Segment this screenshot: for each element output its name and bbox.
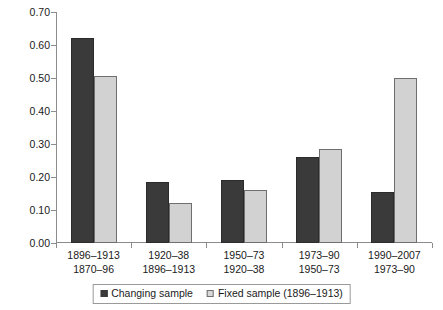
x-axis-category-label: 1950–731920–38 — [206, 248, 281, 276]
y-axis-tick-label: 0.50 — [6, 73, 50, 84]
legend-label: Fixed sample (1896–1913) — [218, 287, 343, 300]
x-label-line-2: 1896–1913 — [131, 262, 206, 276]
x-label-line-2: 1950–73 — [282, 262, 357, 276]
x-axis-category-label: 1990–20071973–90 — [357, 248, 432, 276]
legend-swatch-icon — [100, 290, 107, 297]
legend-swatch-icon — [207, 290, 214, 297]
x-label-line-1: 1950–73 — [224, 249, 265, 261]
x-axis-category-label: 1920–381896–1913 — [131, 248, 206, 276]
y-axis-tick-label: 0.40 — [6, 106, 50, 117]
x-axis-category-label: 1896–19131870–96 — [56, 248, 131, 276]
plot-area: 0.000.100.200.300.400.500.600.70 — [56, 12, 432, 243]
bar — [371, 192, 394, 243]
bar-group — [131, 182, 206, 243]
chart-page: 0.000.100.200.300.400.500.600.70 1896–19… — [0, 0, 443, 310]
y-axis-tick — [51, 12, 56, 13]
x-axis-category-label: 1973–901950–73 — [282, 248, 357, 276]
x-label-line-2: 1870–96 — [56, 262, 131, 276]
legend-item: Fixed sample (1896–1913) — [207, 287, 343, 300]
bar-group — [357, 78, 432, 243]
bar-group — [282, 149, 357, 243]
x-axis-category-labels: 1896–19131870–961920–381896–19131950–731… — [56, 248, 432, 280]
x-axis-tick — [432, 243, 433, 248]
bar — [71, 38, 94, 243]
bar — [319, 149, 342, 243]
bar — [146, 182, 169, 243]
chart-legend: Changing sampleFixed sample (1896–1913) — [92, 284, 351, 304]
bar-group — [56, 38, 131, 243]
x-label-line-1: 1990–2007 — [368, 249, 421, 261]
bar — [94, 76, 117, 243]
x-label-line-1: 1973–90 — [299, 249, 340, 261]
y-axis-tick-label: 0.30 — [6, 139, 50, 150]
x-label-line-1: 1896–1913 — [67, 249, 120, 261]
bar-group — [206, 180, 281, 243]
y-axis-tick-label: 0.20 — [6, 172, 50, 183]
bar — [169, 203, 192, 243]
y-axis-tick-label: 0.10 — [6, 205, 50, 216]
legend-label: Changing sample — [111, 287, 193, 300]
y-axis-tick-label: 0.00 — [6, 238, 50, 249]
bar — [221, 180, 244, 243]
x-label-line-2: 1920–38 — [206, 262, 281, 276]
y-axis-tick-label: 0.70 — [6, 7, 50, 18]
bar — [296, 157, 319, 243]
y-axis-tick-label: 0.60 — [6, 40, 50, 51]
x-label-line-1: 1920–38 — [148, 249, 189, 261]
x-label-line-2: 1973–90 — [357, 262, 432, 276]
bar — [244, 190, 267, 243]
bar — [394, 78, 417, 243]
legend-item: Changing sample — [100, 287, 193, 300]
